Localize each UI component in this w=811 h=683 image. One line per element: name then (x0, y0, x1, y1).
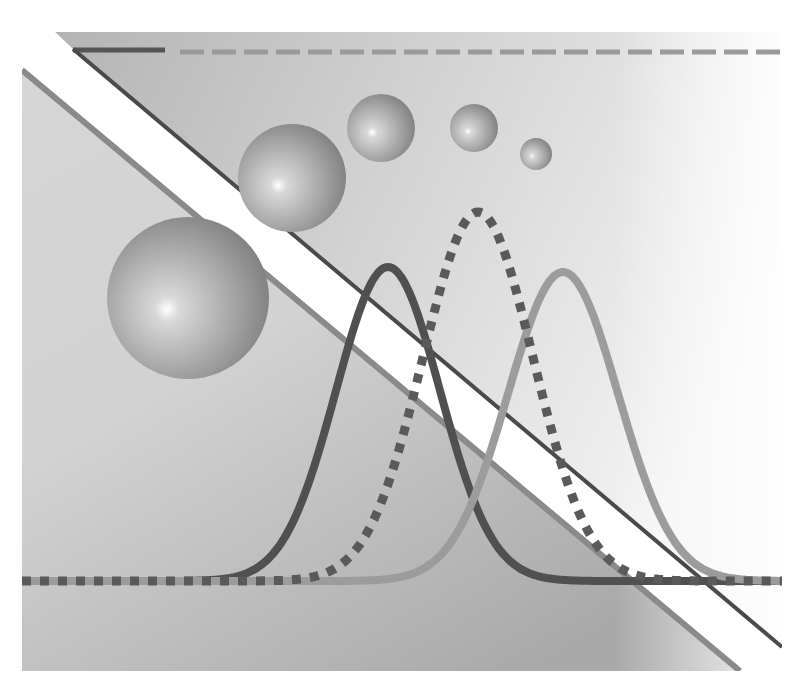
abstract-illustration (0, 0, 811, 683)
sphere-5 (520, 138, 552, 170)
sphere-2 (238, 124, 346, 232)
sphere-1 (107, 217, 269, 379)
sphere-4 (450, 104, 498, 152)
sphere-3 (347, 94, 415, 162)
